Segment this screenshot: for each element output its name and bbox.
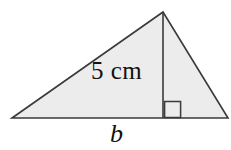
figure-container: 5 cm b	[0, 0, 231, 150]
height-label: 5 cm	[91, 58, 142, 83]
base-label: b	[110, 121, 123, 147]
